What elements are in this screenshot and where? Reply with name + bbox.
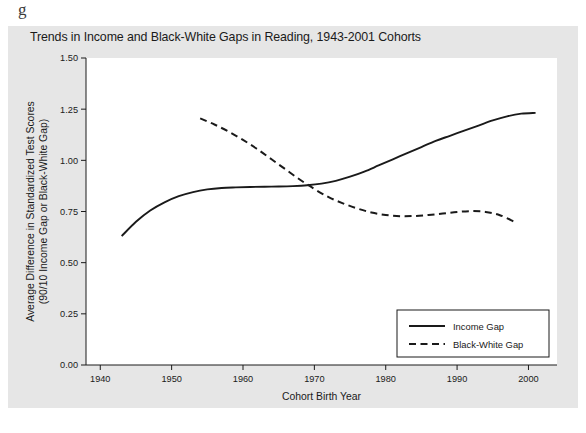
x-axis-tick-label: 1990: [447, 374, 467, 384]
y-axis-tick-label: 0.00: [60, 360, 78, 370]
y-axis-tick-label: 1.00: [60, 156, 78, 166]
y-axis-tick-label: 0.50: [60, 258, 78, 268]
chart-panel: Trends in Income and Black-White Gaps in…: [8, 26, 578, 408]
page-artifact-glyph: g: [18, 0, 32, 22]
x-axis-tick-label: 1960: [233, 374, 253, 384]
x-axis-tick-label: 1940: [90, 374, 110, 384]
y-axis-title: Average Difference in Standardized Test …: [25, 101, 49, 322]
y-axis-tick-label: 1.50: [60, 53, 78, 63]
y-axis-tick-label: 1.25: [60, 105, 78, 115]
legend-box: [397, 310, 549, 357]
chart-legend: Income GapBlack-White Gap: [397, 310, 549, 357]
x-axis-tick-label: 1950: [161, 374, 181, 384]
x-axis-tick-label: 1980: [376, 374, 396, 384]
y-axis-tick-label: 0.25: [60, 309, 78, 319]
svg-text:(90/10 Income Gap or Black-Whi: (90/10 Income Gap or Black-White Gap): [38, 119, 49, 304]
x-axis-tick-label: 2000: [518, 374, 538, 384]
figure-container: g Trends in Income and Black-White Gaps …: [0, 0, 586, 433]
legend-label-1: Income Gap: [453, 321, 504, 332]
line-chart: 0.000.250.500.751.001.251.50194019501960…: [8, 26, 578, 408]
legend-label-2: Black-White Gap: [453, 339, 523, 350]
x-axis-tick-label: 1970: [304, 374, 324, 384]
x-axis-title: Cohort Birth Year: [282, 391, 362, 402]
y-axis-tick-label: 0.75: [60, 207, 78, 217]
svg-text:Average Difference in Standard: Average Difference in Standardized Test …: [25, 101, 36, 322]
